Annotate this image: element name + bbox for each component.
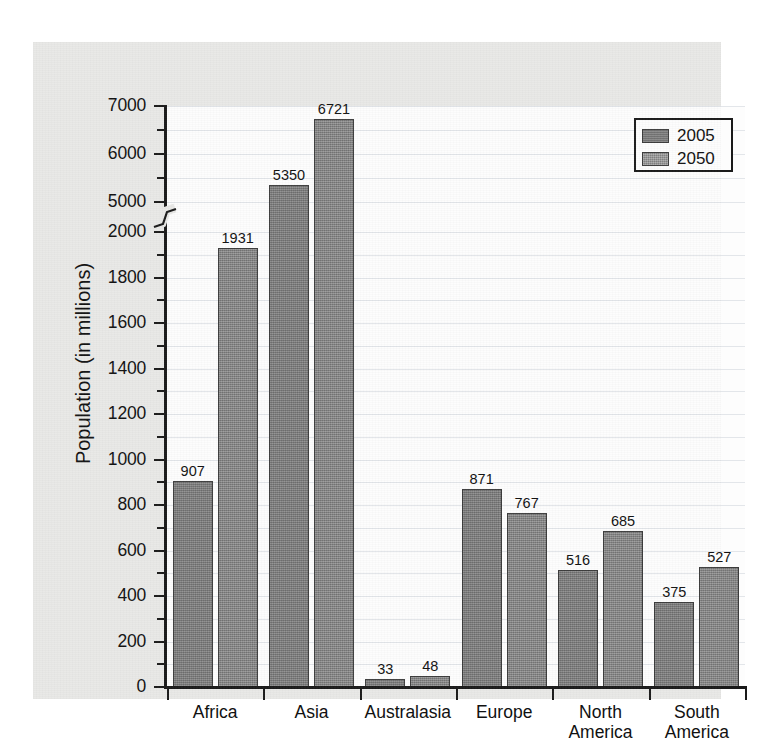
x-tick: [649, 688, 651, 700]
bar-north-america-2050: [603, 531, 643, 687]
gridline: [167, 178, 745, 179]
x-axis-label-asia: Asia: [263, 702, 359, 722]
bar-value-label: 767: [501, 496, 553, 511]
y-tick-label: 800: [68, 496, 146, 514]
x-tick: [167, 688, 169, 700]
y-tick-label: 1600: [68, 314, 146, 332]
y-tick-label: 5000: [68, 193, 146, 211]
axis-break-icon: [151, 202, 177, 232]
bar-value-label: 527: [693, 550, 745, 565]
y-tick-major: [154, 105, 165, 107]
y-tick-minor: [157, 345, 165, 347]
y-tick-major: [154, 459, 165, 461]
y-axis-line: [164, 105, 167, 688]
x-tick: [552, 688, 554, 700]
plot-area: 9071931535067213348871767516685375527: [167, 106, 745, 687]
y-tick-major: [154, 641, 165, 643]
y-tick-minor: [157, 663, 165, 665]
bar-asia-2005: [269, 185, 309, 687]
y-tick-label: 2000: [68, 223, 146, 241]
x-axis-label-line: South: [649, 702, 745, 722]
bar-value-label: 907: [167, 464, 219, 479]
bar-europe-2005: [462, 489, 502, 687]
x-axis-label-line: Asia: [263, 702, 359, 722]
y-tick-major: [154, 686, 165, 688]
y-tick-major: [154, 504, 165, 506]
bar-asia-2050: [314, 119, 354, 687]
x-axis-label-line: America: [649, 722, 745, 739]
x-axis-label-line: Europe: [456, 702, 552, 722]
x-axis-label-line: Australasia: [360, 702, 456, 722]
legend-entry-2050[interactable]: 2050: [642, 147, 725, 170]
bar-south-america-2050: [699, 567, 739, 687]
y-tick-major: [154, 550, 165, 552]
y-tick-label: 1200: [68, 405, 146, 423]
y-tick-minor: [157, 436, 165, 438]
bar-africa-2005: [173, 481, 213, 687]
y-tick-label: 7000: [68, 97, 146, 115]
bar-value-label: 6721: [308, 102, 360, 117]
y-tick-minor: [157, 481, 165, 483]
y-tick-minor: [157, 390, 165, 392]
y-tick-minor: [157, 177, 165, 179]
bar-value-label: 871: [456, 472, 508, 487]
y-tick-label: 400: [68, 587, 146, 605]
y-tick-major: [154, 322, 165, 324]
bar-north-america-2005: [558, 570, 598, 687]
y-tick-minor: [157, 618, 165, 620]
figure-panel: Population (in millions) 907193153506721…: [33, 42, 721, 699]
bar-value-label: 48: [404, 659, 456, 674]
bar-value-label: 5350: [263, 168, 315, 183]
x-tick: [263, 688, 265, 700]
y-tick-label: 600: [68, 542, 146, 560]
series-2050-swatch-icon: [642, 152, 669, 166]
y-tick-major: [154, 277, 165, 279]
y-tick-major: [154, 368, 165, 370]
y-tick-label: 1400: [68, 360, 146, 378]
y-tick-minor: [157, 527, 165, 529]
x-axis-label-line: Africa: [167, 702, 263, 722]
gridline: [167, 202, 745, 203]
y-tick-label: 200: [68, 633, 146, 651]
y-tick-major: [154, 153, 165, 155]
x-axis-label-europe: Europe: [456, 702, 552, 722]
bar-value-label: 685: [597, 514, 649, 529]
y-tick-label: 0: [68, 678, 146, 696]
bar-value-label: 516: [552, 553, 604, 568]
legend-label-2050: 2050: [677, 150, 715, 167]
bar-value-label: 375: [648, 585, 700, 600]
x-axis-label-south: SouthAmerica: [649, 702, 745, 739]
y-tick-minor: [157, 572, 165, 574]
y-tick-label: 1800: [68, 269, 146, 287]
y-tick-label: 6000: [68, 145, 146, 163]
legend[interactable]: 2005 2050: [634, 118, 733, 172]
legend-label-2005: 2005: [677, 127, 715, 144]
legend-entry-2005[interactable]: 2005: [642, 124, 725, 147]
x-axis-label-australasia: Australasia: [360, 702, 456, 722]
bar-africa-2050: [218, 248, 258, 687]
x-tick: [360, 688, 362, 700]
x-axis-label-north: NorthAmerica: [552, 702, 648, 739]
bar-south-america-2005: [654, 602, 694, 687]
x-tick: [745, 688, 747, 700]
y-tick-minor: [157, 129, 165, 131]
y-tick-label: 1000: [68, 451, 146, 469]
y-tick-major: [154, 413, 165, 415]
y-tick-major: [154, 595, 165, 597]
x-axis-label-africa: Africa: [167, 702, 263, 722]
gridline: [167, 106, 745, 107]
bar-europe-2050: [507, 513, 547, 687]
y-tick-minor: [157, 299, 165, 301]
x-axis-label-line: America: [552, 722, 648, 739]
x-tick: [456, 688, 458, 700]
bar-value-label: 1931: [212, 231, 264, 246]
y-tick-minor: [157, 254, 165, 256]
x-axis-label-line: North: [552, 702, 648, 722]
series-2005-swatch-icon: [642, 129, 669, 143]
